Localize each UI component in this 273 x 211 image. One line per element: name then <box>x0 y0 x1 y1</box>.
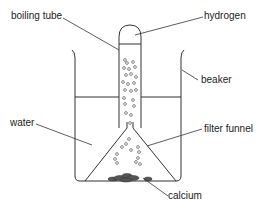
label-boiling-tube: boiling tube <box>11 11 62 21</box>
boiling-tube <box>119 25 141 128</box>
gas-bubbles <box>114 59 142 166</box>
label-beaker: beaker <box>201 75 232 85</box>
label-hydrogen: hydrogen <box>204 11 246 21</box>
calcium-pieces <box>108 174 152 183</box>
apparatus-diagram <box>0 0 273 211</box>
label-calcium: calcium <box>168 191 202 201</box>
label-filter-funnel: filter funnel <box>204 124 253 134</box>
label-water: water <box>10 118 34 128</box>
